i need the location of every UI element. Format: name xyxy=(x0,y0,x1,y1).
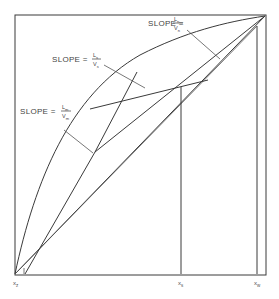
slope-prefix: SLOPE = xyxy=(20,107,56,116)
fraction-denominator: Vs xyxy=(93,61,99,69)
slope-prefix: SLOPE = xyxy=(52,55,88,64)
operating-line-m-upper xyxy=(95,72,137,152)
fraction-denominator: Vm xyxy=(62,113,70,121)
slope-label-s: SLOPE = Ls Vs xyxy=(52,52,101,69)
fraction-numerator: Lm xyxy=(62,104,69,112)
axis-label-xs: xs xyxy=(178,280,184,288)
axis-label-xw: xw xyxy=(254,280,261,288)
fraction-numerator: Ls xyxy=(93,52,98,60)
leader-m xyxy=(64,130,93,153)
slope-label-n: SLOPE = Ln Vn xyxy=(148,16,184,33)
axis-label-xz: xz xyxy=(13,280,19,288)
leader-n xyxy=(187,30,220,59)
diagram-canvas: SLOPE = Ln Vn SLOPE = Ls Vs SLOPE = Lm V… xyxy=(0,0,279,299)
operating-line-n xyxy=(95,16,265,152)
operating-line-m-lower xyxy=(25,152,95,274)
slope-label-m: SLOPE = Lm Vm xyxy=(20,104,71,121)
